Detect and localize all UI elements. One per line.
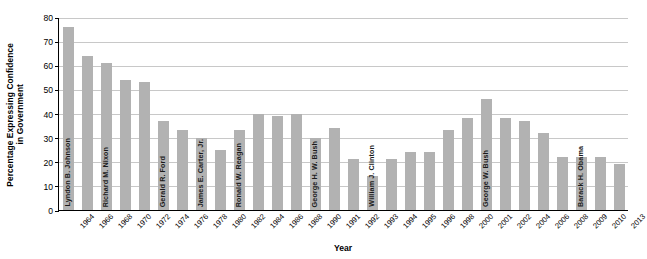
bar xyxy=(443,130,454,210)
x-axis-tick-label: 1998 xyxy=(457,212,475,230)
x-axis-tick-label: 1993 xyxy=(381,212,399,230)
bar xyxy=(120,80,131,210)
bar xyxy=(329,128,340,210)
y-axis-tick-label: 80 xyxy=(43,13,53,23)
x-axis-tick-label: 1982 xyxy=(248,212,266,230)
x-axis-tick-label: 1996 xyxy=(438,212,456,230)
x-axis-tick-label: 1991 xyxy=(343,212,361,230)
x-axis-tick-label: 1984 xyxy=(267,212,285,230)
x-axis-tick-label: 1988 xyxy=(305,212,323,230)
president-annotation: George W. Bush xyxy=(482,150,489,207)
x-axis-tick-label: 2006 xyxy=(552,212,570,230)
x-axis-tick-label: 2002 xyxy=(514,212,532,230)
president-annotation: Lyndon B. Johnson xyxy=(64,138,71,207)
bar xyxy=(462,118,473,210)
x-axis-tick-label: 2008 xyxy=(571,212,589,230)
y-axis-tick-label: 20 xyxy=(43,158,53,168)
x-axis-tick-label: 1990 xyxy=(324,212,342,230)
bar xyxy=(253,114,264,211)
bar xyxy=(614,164,625,210)
bar xyxy=(177,130,188,210)
bar xyxy=(139,82,150,210)
bar xyxy=(519,121,530,210)
president-annotation: James E. Carter, Jr. xyxy=(197,139,204,207)
y-axis-tick-label: 50 xyxy=(43,85,53,95)
x-axis-tick-label: 2000 xyxy=(476,212,494,230)
bar xyxy=(557,157,568,210)
president-annotation: Gerald R. Ford xyxy=(159,156,166,207)
bar xyxy=(538,133,549,210)
x-axis-tick-label: 1986 xyxy=(286,212,304,230)
x-axis-tick-label: 1978 xyxy=(210,212,228,230)
x-axis-tick-label: 2010 xyxy=(609,212,627,230)
president-annotation: George H. W. Bush xyxy=(311,141,318,207)
bar xyxy=(500,118,511,210)
x-axis-tick-label: 2004 xyxy=(533,212,551,230)
bar xyxy=(82,56,93,210)
y-axis-tick-label: 60 xyxy=(43,61,53,71)
x-axis-tick-label: 1968 xyxy=(115,212,133,230)
x-axis-tick-label: 1966 xyxy=(96,212,114,230)
y-axis-tick-label: 0 xyxy=(48,206,53,216)
y-axis-tick-label: 30 xyxy=(43,134,53,144)
x-axis-tick-label: 1980 xyxy=(229,212,247,230)
bar xyxy=(348,159,359,210)
bar xyxy=(405,152,416,210)
y-axis-tick-label: 10 xyxy=(43,182,53,192)
bar xyxy=(291,114,302,211)
x-axis-tick-label: 1964 xyxy=(77,212,95,230)
y-axis-tick-label: 40 xyxy=(43,110,53,120)
x-axis-tick-label: 1974 xyxy=(172,212,190,230)
bar xyxy=(424,152,435,210)
president-annotation: Barack H. Obama xyxy=(577,146,584,207)
x-axis-tick-label: 1995 xyxy=(419,212,437,230)
plot-area: Lyndon B. JohnsonRichard M. NixonGerald … xyxy=(58,18,628,211)
x-axis-tick-labels: 1964196619681970197219741976197819801982… xyxy=(58,212,628,242)
x-axis-tick-label: 2009 xyxy=(590,212,608,230)
y-axis-title-line-1: Percentage Expressing Confidence xyxy=(6,43,14,187)
x-axis-tick-label: 1992 xyxy=(362,212,380,230)
x-axis-tick-label: 1972 xyxy=(153,212,171,230)
x-axis-tick-label: 2013 xyxy=(628,212,646,230)
y-axis-title-line-2: in Government xyxy=(16,84,24,144)
y-axis-title: Percentage Expressing Confidence in Gove… xyxy=(0,18,30,211)
bar xyxy=(215,150,226,210)
x-axis-tick-label: 1970 xyxy=(134,212,152,230)
x-axis-tick-label: 2001 xyxy=(495,212,513,230)
bar xyxy=(386,159,397,210)
y-axis-tick-labels: 01020304050607080 xyxy=(30,18,56,211)
bar xyxy=(595,157,606,210)
bar xyxy=(272,116,283,210)
president-annotation: William J. Clinton xyxy=(368,145,375,207)
y-axis-tick-label: 70 xyxy=(43,37,53,47)
x-axis-tick-label: 1994 xyxy=(400,212,418,230)
bar-series: Lyndon B. JohnsonRichard M. NixonGerald … xyxy=(59,18,628,210)
president-annotation: Richard M. Nixon xyxy=(102,147,109,207)
president-annotation: Ronald W. Reagan xyxy=(235,143,242,207)
x-axis-title: Year xyxy=(58,243,628,253)
x-axis-tick-label: 1976 xyxy=(191,212,209,230)
